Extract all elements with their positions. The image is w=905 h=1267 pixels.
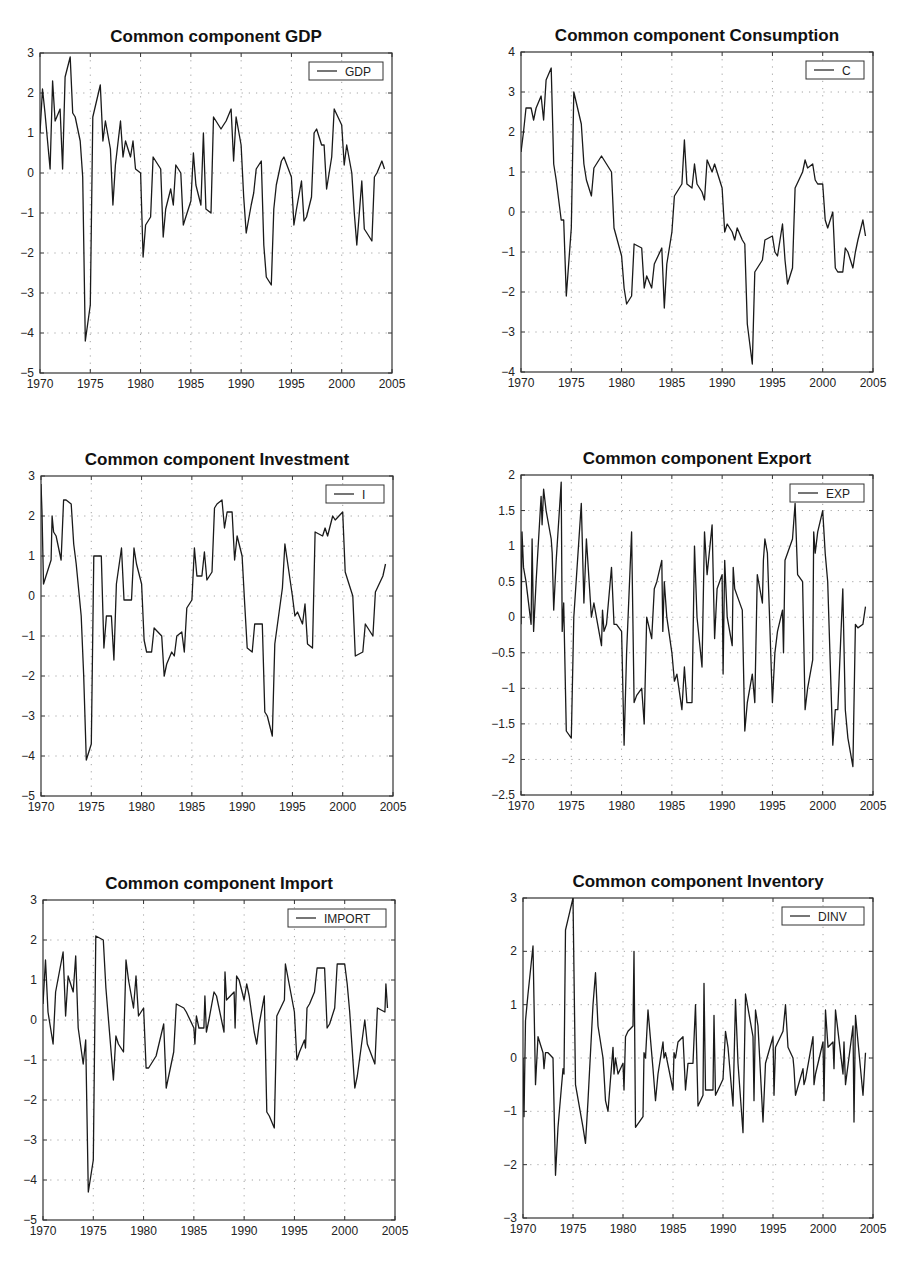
x-tick-label: 2005 <box>860 1222 887 1236</box>
y-tick-label: −2 <box>503 1158 517 1172</box>
chart-title: Common component Inventory <box>572 872 824 891</box>
x-tick-label: 1980 <box>610 1222 637 1236</box>
y-tick-label: −1 <box>503 1104 517 1118</box>
y-tick-label: 0 <box>510 1051 517 1065</box>
x-tick-label: 1985 <box>660 1222 687 1236</box>
legend: DINV <box>782 907 864 925</box>
y-tick-label: 3 <box>510 891 517 905</box>
y-tick-label: 2 <box>510 944 517 958</box>
legend-label: DINV <box>818 910 847 924</box>
x-tick-label: 1975 <box>560 1222 587 1236</box>
x-tick-label: 1995 <box>760 1222 787 1236</box>
y-tick-label: −3 <box>503 1211 517 1225</box>
chart-inventory: Common component Inventory19701975198019… <box>0 0 905 1267</box>
y-tick-label: 1 <box>510 998 517 1012</box>
x-tick-label: 1990 <box>710 1222 737 1236</box>
x-tick-label: 2000 <box>810 1222 837 1236</box>
chart-svg: Common component Inventory19701975198019… <box>0 0 905 1267</box>
